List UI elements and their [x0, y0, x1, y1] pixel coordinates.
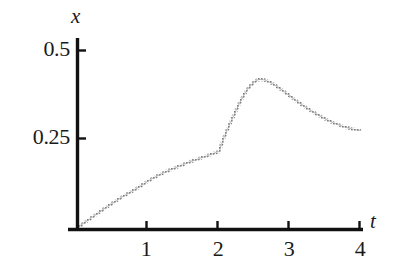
chart-figure: x t 0.5 0.25 1 2 3 4 — [0, 0, 393, 278]
y-axis-title: x — [71, 6, 80, 27]
x-tick-label-2: 2 — [203, 238, 233, 260]
y-tick-label-0.25: 0.25 — [4, 126, 70, 148]
y-tick-label-0.5: 0.5 — [14, 38, 70, 60]
x-axis-title: t — [370, 211, 376, 232]
x-tick-label-1: 1 — [131, 238, 161, 260]
x-tick-label-3: 3 — [274, 238, 304, 260]
x-tick-label-4: 4 — [345, 238, 375, 260]
